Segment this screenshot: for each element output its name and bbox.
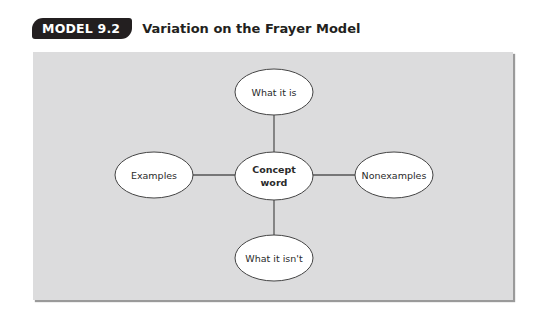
- node-label: Examples: [131, 169, 177, 182]
- node-label: What it is: [252, 86, 297, 99]
- node-label: Conceptword: [252, 163, 296, 189]
- concept-line1: Concept: [252, 164, 296, 175]
- node-nonexamples: Nonexamples: [355, 152, 433, 198]
- node-what-it-is: What it is: [235, 69, 313, 115]
- node-what-it-isnt: What it isn't: [235, 235, 313, 281]
- node-concept-word: Conceptword: [235, 152, 313, 200]
- node-examples: Examples: [115, 152, 193, 198]
- concept-line2: word: [261, 177, 288, 188]
- node-label: What it isn't: [245, 252, 302, 265]
- node-label: Nonexamples: [362, 169, 427, 182]
